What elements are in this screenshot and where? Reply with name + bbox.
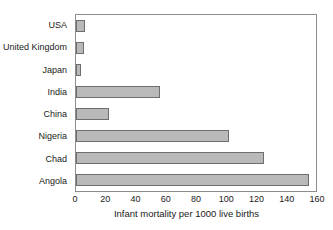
bar-row <box>76 174 316 186</box>
bar-row <box>76 152 316 164</box>
y-axis-label-nigeria: Nigeria <box>38 131 71 141</box>
y-axis-label-china: China <box>43 109 71 119</box>
plot-area <box>76 15 316 191</box>
x-axis-tick-20: 20 <box>100 194 110 204</box>
x-axis-tick-100: 100 <box>219 194 234 204</box>
y-axis-label-united-kingdom: United Kingdom <box>3 42 71 52</box>
bar-row <box>76 130 316 142</box>
bar-row <box>76 42 316 54</box>
bar-usa <box>76 20 85 32</box>
x-axis-tick-60: 60 <box>161 194 171 204</box>
x-axis-tick-40: 40 <box>130 194 140 204</box>
bar-nigeria <box>76 130 229 142</box>
y-axis-label-india: India <box>47 87 71 97</box>
x-axis-tick-120: 120 <box>249 194 264 204</box>
y-axis-category-labels: USA United Kingdom Japan India China Nig… <box>0 14 71 192</box>
x-axis: 020406080100120140160 <box>75 192 317 208</box>
x-axis-tick-80: 80 <box>191 194 201 204</box>
bar-row <box>76 20 316 32</box>
y-axis-label-japan: Japan <box>42 65 71 75</box>
bar-united-kingdom <box>76 42 84 54</box>
bar-angola <box>76 174 309 186</box>
x-axis-tick-0: 0 <box>72 194 77 204</box>
bar-row <box>76 64 316 76</box>
bar-india <box>76 86 160 98</box>
x-axis-tick-160: 160 <box>309 194 324 204</box>
x-axis-tick-140: 140 <box>279 194 294 204</box>
bar-row <box>76 86 316 98</box>
y-axis-label-chad: Chad <box>45 154 71 164</box>
y-axis-label-angola: Angola <box>39 176 71 186</box>
y-axis-label-usa: USA <box>48 20 71 30</box>
plot-frame <box>75 14 317 192</box>
bar-row <box>76 108 316 120</box>
x-axis-title: Infant mortality per 1000 live births <box>0 208 333 220</box>
bar-japan <box>76 64 81 76</box>
bar-chad <box>76 152 264 164</box>
bar-chart: USA United Kingdom Japan India China Nig… <box>0 0 333 230</box>
bar-china <box>76 108 109 120</box>
